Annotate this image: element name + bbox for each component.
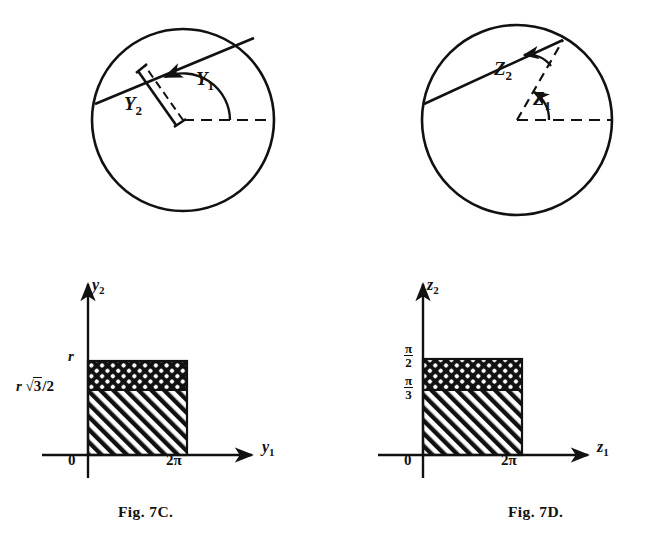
distance-bar-cap-outer (136, 64, 147, 73)
label-Z2: Z2 (494, 58, 512, 84)
y-tick-label-r: r (68, 348, 74, 365)
fraction-pi-2: π 2 (404, 342, 413, 370)
x-axis-label-7d: z1 (597, 438, 609, 458)
region-crosshatch-7c (88, 361, 187, 390)
chord-line-left (95, 38, 254, 104)
sqrt-symbol: √3 (26, 377, 43, 395)
tick-suffix-over-2: /2 (42, 378, 54, 394)
fraction-numerator: π (404, 342, 413, 355)
label-Y2: Y2 (124, 93, 142, 119)
fraction-pi-3: π 3 (404, 374, 413, 402)
fraction-numerator: π (404, 374, 413, 387)
y-tick-label-pi-over-3: π 3 (404, 374, 413, 402)
x-tick-label-2pi-7c: 2π (166, 452, 182, 469)
origin-label-7d: 0 (404, 452, 412, 469)
fraction-denominator: 3 (404, 387, 413, 401)
fraction-denominator: 2 (404, 355, 413, 369)
x-axis-label-7c: y1 (262, 438, 275, 458)
region-crosshatch-7d (423, 359, 522, 390)
origin-label-7c: 0 (68, 452, 76, 469)
region-diagonal-hatch-7d (423, 390, 522, 455)
y-axis-label-7c: y2 (92, 276, 105, 296)
figure-caption-7c: Fig. 7C. (118, 503, 173, 521)
circle-diagram-7c (92, 29, 274, 211)
label-Y1: Y1 (196, 68, 214, 94)
figure-canvas (0, 0, 668, 540)
y-axis-label-7d: z2 (427, 276, 439, 296)
y-tick-label-pi-over-2: π 2 (404, 342, 413, 370)
tick-prefix-r: r (16, 378, 22, 394)
radicand: 3 (33, 377, 43, 395)
circle-diagram-7d (422, 25, 612, 215)
plot-7c (42, 284, 252, 478)
region-diagonal-hatch-7c (88, 390, 187, 455)
figure-caption-7d: Fig. 7D. (508, 503, 563, 521)
label-Z1: Z1 (533, 88, 551, 114)
x-tick-label-2pi-7d: 2π (501, 452, 517, 469)
y-tick-label-r-sqrt3-over-2: r √3/2 (16, 377, 54, 395)
